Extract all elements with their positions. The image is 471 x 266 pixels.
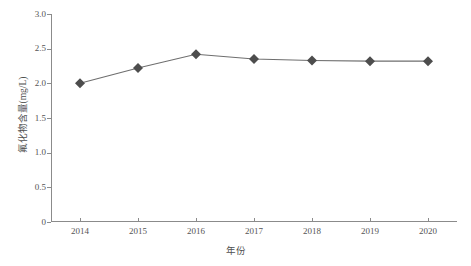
line-chart-figure: 氟化物含量(mg/L) 00.51.01.52.02.53.0 20142015… (0, 0, 471, 266)
x-tick-label: 2016 (174, 226, 218, 236)
y-tick-label: 2.5 (20, 44, 46, 53)
x-axis-title: 年份 (0, 243, 471, 257)
y-tick-label: 2.0 (20, 79, 46, 88)
x-tick-label: 2015 (116, 226, 160, 236)
y-tick-label: 3.0 (20, 10, 46, 19)
x-tick-label: 2018 (290, 226, 334, 236)
y-tick-label: 0.5 (20, 183, 46, 192)
y-axis-tick-labels: 00.51.01.52.02.53.0 (16, 0, 46, 266)
x-tick-label: 2020 (406, 226, 450, 236)
y-tick-label: 0 (20, 218, 46, 227)
x-tick-label: 2019 (348, 226, 392, 236)
x-tick-label: 2017 (232, 226, 276, 236)
y-tick-label: 1.5 (20, 114, 46, 123)
x-axis-tick-labels: 2014201520162017201820192020 (51, 0, 457, 266)
y-tick-label: 1.0 (20, 148, 46, 157)
x-tick-label: 2014 (58, 226, 102, 236)
